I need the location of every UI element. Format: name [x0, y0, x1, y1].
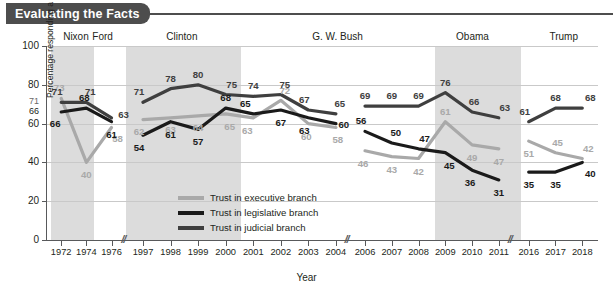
data-label: 75: [226, 78, 237, 89]
data-label: 42: [413, 165, 424, 176]
y-tick: [42, 240, 47, 241]
legend: Trust in executive branch Trust in legis…: [178, 190, 318, 235]
x-tick: [171, 241, 172, 246]
data-label: 63: [242, 124, 253, 135]
data-label: 54: [134, 142, 145, 153]
legend-item: Trust in legislative branch: [178, 205, 318, 220]
x-tick: [499, 241, 500, 246]
data-label: 61: [106, 128, 117, 139]
data-label: 50: [390, 127, 401, 138]
data-label: 62: [134, 125, 145, 136]
x-tick-label: 2018: [565, 247, 599, 257]
era-label-g-w-bush: G. W. Bush: [312, 31, 363, 42]
data-label: 42: [583, 142, 594, 153]
x-tick: [112, 241, 113, 246]
x-tick: [61, 241, 62, 246]
y-axis-title: Percentage responding a great deal/fair …: [45, 0, 55, 98]
x-tick: [472, 241, 473, 246]
x-tick: [281, 241, 282, 246]
data-label: 47: [493, 155, 504, 166]
x-tick: [336, 241, 337, 246]
legend-swatch-legislative: [178, 211, 204, 215]
banner-header: Evaluating the Facts: [6, 3, 150, 24]
y-tick-label: 80: [13, 79, 39, 90]
x-tick: [392, 241, 393, 246]
data-label: 66: [469, 95, 480, 106]
data-label: 35: [550, 179, 561, 190]
x-tick-label: 2011: [482, 247, 516, 257]
x-tick: [445, 241, 446, 246]
data-label: 65: [240, 97, 251, 108]
data-label: 71: [134, 86, 145, 97]
data-label: 74: [248, 80, 259, 91]
data-label: 69: [413, 90, 424, 101]
legend-item: Trust in judicial branch: [178, 220, 318, 235]
series-lines: [47, 46, 598, 240]
data-label: 49: [467, 151, 478, 162]
x-tick: [86, 241, 87, 246]
x-tick: [419, 241, 420, 246]
data-label: 63: [299, 124, 310, 135]
data-label: 63: [499, 101, 510, 112]
data-label: 43: [386, 163, 397, 174]
legend-label-executive: Trust in executive branch: [210, 192, 317, 203]
era-label-obama: Obama: [456, 31, 489, 42]
y-tick-label: 40: [13, 156, 39, 167]
era-label-ford: Ford: [92, 31, 113, 42]
era-label-trump: Trump: [549, 31, 578, 42]
data-label: 40: [585, 168, 596, 179]
x-tick-label: 1976: [95, 247, 129, 257]
data-label: 46: [358, 157, 369, 168]
data-label: 61: [519, 105, 530, 116]
era-label-nixon: Nixon: [63, 31, 89, 42]
data-label: 51: [523, 148, 534, 159]
x-tick: [198, 241, 199, 246]
data-label: 69: [360, 90, 371, 101]
legend-item: Trust in executive branch: [178, 190, 318, 205]
series-line-trust-in-judicial-branch: [529, 108, 583, 122]
data-label: 65: [224, 120, 235, 131]
data-label: 78: [165, 72, 176, 83]
x-tick: [529, 241, 530, 246]
data-label: 68: [550, 92, 561, 103]
data-label: 71: [85, 86, 96, 97]
y-tick-label: 100: [13, 40, 39, 51]
data-label: 64: [193, 121, 204, 132]
x-tick: [555, 241, 556, 246]
plot-inner: 0204060801007166197219741976199719981999…: [47, 46, 598, 240]
x-tick: [226, 241, 227, 246]
era-label-clinton: Clinton: [166, 31, 197, 42]
data-label: 56: [356, 115, 367, 126]
data-label: 76: [440, 76, 451, 87]
banner-rule: [150, 13, 613, 15]
data-label: 61: [165, 128, 176, 139]
data-label: 61: [440, 105, 451, 116]
data-label: 35: [523, 179, 534, 190]
data-label: 63: [118, 108, 129, 119]
data-label: 60: [339, 118, 350, 129]
data-label: 80: [193, 68, 204, 79]
data-label: 45: [444, 159, 455, 170]
x-tick: [308, 241, 309, 246]
data-label: 69: [386, 90, 397, 101]
x-tick: [582, 241, 583, 246]
data-label: 68: [220, 92, 231, 103]
y-extra-mark: 66: [13, 106, 39, 116]
data-label: 75: [279, 78, 290, 89]
x-tick: [143, 241, 144, 246]
x-axis-line: [46, 240, 598, 241]
data-label: 31: [493, 186, 504, 197]
y-tick-label: 60: [13, 118, 39, 129]
data-label: 66: [50, 117, 61, 128]
y-tick-label: 0: [13, 234, 39, 245]
legend-swatch-executive: [178, 196, 204, 200]
data-label: 67: [299, 94, 310, 105]
data-label: 45: [552, 136, 563, 147]
data-label: 40: [81, 169, 92, 180]
legend-label-legislative: Trust in legislative branch: [210, 207, 318, 218]
chart-figure: Evaluating the Facts 0204060801007166197…: [0, 0, 613, 299]
x-tick: [253, 241, 254, 246]
x-axis-title: Year: [0, 272, 613, 283]
data-label: 65: [335, 97, 346, 108]
data-label: 58: [333, 134, 344, 145]
